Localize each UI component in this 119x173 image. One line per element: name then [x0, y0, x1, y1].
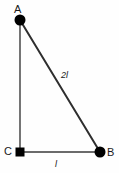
side-label-hypotenuse: 2l: [61, 71, 68, 80]
vertex-label-a: A: [14, 4, 21, 15]
triangle-figure: A B C 2l l: [0, 0, 119, 173]
side-label-base: l: [55, 160, 57, 169]
vertex-marker-a: [15, 15, 26, 26]
vertex-marker-c: [16, 148, 25, 157]
triangle-drawing: [0, 0, 119, 173]
edge-hypotenuse-ab: [20, 20, 100, 152]
vertex-label-c: C: [4, 146, 12, 157]
vertex-label-b: B: [107, 147, 114, 158]
vertex-marker-b: [95, 147, 106, 158]
